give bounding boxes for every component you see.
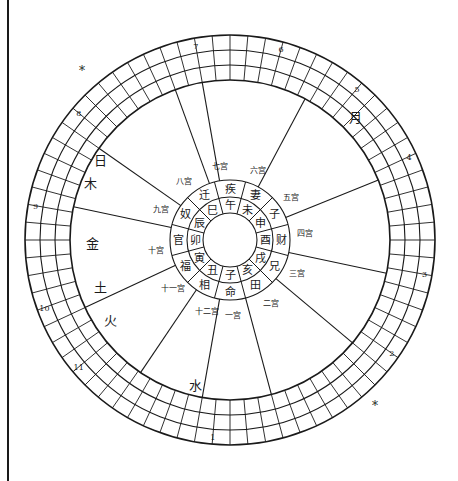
degree-tick bbox=[244, 399, 248, 444]
degree-tick bbox=[62, 122, 99, 148]
ring-number: 2 bbox=[389, 349, 394, 358]
house-spoke bbox=[175, 90, 209, 184]
house-spoke bbox=[276, 279, 353, 343]
palace-label: 奴 bbox=[180, 207, 191, 221]
palace-label: 妻 bbox=[250, 189, 261, 202]
palace-label: 田 bbox=[250, 279, 261, 292]
star-mark: * bbox=[79, 64, 85, 78]
chart-center-text: 子丑寅卯辰巳午未申酉戌亥命相福官奴迁疾妻子财兄田 bbox=[173, 182, 287, 299]
house-label: 九宫 bbox=[153, 204, 169, 214]
degree-tick bbox=[322, 72, 348, 109]
degree-tick bbox=[112, 371, 138, 408]
house-label: 七宫 bbox=[212, 161, 228, 171]
degree-tick bbox=[44, 153, 85, 172]
degree-tick bbox=[380, 170, 422, 185]
house-label: 二宫 bbox=[263, 298, 279, 308]
house-label: 八宫 bbox=[176, 176, 192, 186]
branch-label: 子 bbox=[225, 269, 236, 282]
ring-number: 10 bbox=[39, 304, 49, 313]
palace-label: 兄 bbox=[269, 260, 280, 273]
ring-number: 9 bbox=[33, 202, 38, 211]
degree-tick bbox=[160, 47, 175, 89]
degree-tick bbox=[26, 222, 71, 226]
degree-tick bbox=[285, 47, 300, 89]
degree-tick bbox=[389, 254, 434, 258]
branch-label: 亥 bbox=[242, 263, 253, 277]
house-label: 六宫 bbox=[250, 165, 266, 175]
degree-tick bbox=[322, 371, 348, 408]
ring-number: 11 bbox=[74, 363, 84, 372]
degree-tick bbox=[258, 398, 266, 442]
house-label: 十二宫 bbox=[195, 306, 219, 316]
branch-label: 丑 bbox=[207, 264, 218, 277]
degree-tick bbox=[32, 281, 75, 293]
house-spoke bbox=[286, 180, 379, 217]
degree-tick bbox=[298, 385, 317, 426]
degree-tick bbox=[160, 390, 175, 432]
planet-日: 日 bbox=[94, 153, 107, 168]
degree-tick bbox=[285, 390, 300, 432]
ring-circle bbox=[203, 213, 257, 267]
degree-tick bbox=[385, 281, 428, 293]
house-label: 三宫 bbox=[289, 268, 305, 278]
degree-tick bbox=[194, 398, 202, 442]
degree-tick bbox=[375, 308, 416, 327]
house-label: 四宫 bbox=[297, 228, 313, 238]
degree-tick bbox=[28, 268, 72, 276]
degree-tick bbox=[380, 295, 422, 310]
house-spoke bbox=[99, 148, 181, 205]
planet-金: 金 bbox=[86, 236, 99, 251]
degree-tick bbox=[298, 54, 317, 95]
ring-number: 7 bbox=[193, 42, 198, 51]
ring-number: 4 bbox=[406, 153, 411, 162]
branch-label: 辰 bbox=[194, 217, 205, 230]
ring-number: 5 bbox=[354, 85, 359, 94]
astrology-chart: 子丑寅卯辰巳午未申酉戌亥命相福官奴迁疾妻子财兄田 一宫十二宫十一宫十宫九宫八宫七… bbox=[0, 0, 458, 481]
branch-label: 申 bbox=[255, 217, 266, 230]
chart-planets: 日木月金土火水 bbox=[84, 110, 362, 393]
palace-label: 福 bbox=[180, 259, 191, 273]
house-spoke bbox=[141, 290, 197, 373]
ring-number: 8 bbox=[76, 109, 81, 118]
branch-label: 酉 bbox=[260, 234, 271, 247]
degree-tick bbox=[44, 308, 85, 327]
planet-火: 火 bbox=[104, 313, 117, 328]
degree-tick bbox=[389, 222, 434, 226]
degree-tick bbox=[177, 395, 189, 438]
branch-label: 巳 bbox=[207, 204, 218, 217]
degree-tick bbox=[62, 332, 99, 358]
degree-tick bbox=[37, 170, 79, 185]
branch-label: 戌 bbox=[255, 252, 266, 265]
branch-label: 未 bbox=[242, 204, 253, 217]
house-label: 一宫 bbox=[225, 310, 241, 320]
ring-number: 1 bbox=[210, 433, 215, 442]
branch-label: 午 bbox=[225, 199, 236, 212]
degree-tick bbox=[143, 385, 162, 426]
degree-tick bbox=[258, 38, 266, 82]
ring-number: 3 bbox=[422, 270, 427, 279]
degree-tick bbox=[32, 187, 75, 199]
degree-tick bbox=[26, 254, 71, 258]
degree-tick bbox=[177, 42, 189, 85]
branch-label: 卯 bbox=[190, 234, 201, 247]
degree-tick bbox=[388, 204, 432, 212]
planet-水: 水 bbox=[189, 378, 202, 393]
branch-label: 寅 bbox=[194, 251, 205, 265]
planet-土: 土 bbox=[94, 280, 107, 295]
ring-number: 6 bbox=[279, 45, 284, 54]
degree-tick bbox=[361, 122, 398, 148]
palace-label: 命 bbox=[225, 285, 236, 299]
palace-label: 子 bbox=[269, 208, 280, 221]
house-label: 十一宫 bbox=[161, 283, 185, 293]
palace-label: 疾 bbox=[225, 182, 236, 196]
house-spoke bbox=[246, 298, 272, 395]
chart-spokes bbox=[73, 82, 386, 397]
degree-tick bbox=[212, 36, 216, 81]
ring-circle bbox=[70, 80, 390, 400]
house-label: 十宫 bbox=[148, 245, 164, 255]
degree-tick bbox=[244, 36, 248, 81]
planet-月: 月 bbox=[349, 110, 362, 125]
degree-tick bbox=[385, 187, 428, 199]
palace-label: 官 bbox=[173, 233, 184, 247]
star-mark: * bbox=[372, 399, 378, 413]
